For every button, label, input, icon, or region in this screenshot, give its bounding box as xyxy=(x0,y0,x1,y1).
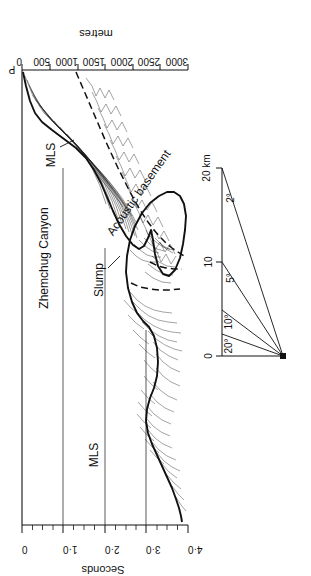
depth-tick-label-0: 0 xyxy=(16,56,22,67)
depth-tick-label-500: 500 xyxy=(33,56,50,67)
time-axis-title: Seconds xyxy=(81,564,124,576)
profile-start-marker: P xyxy=(8,64,15,75)
label-mls-upper: MLS xyxy=(44,143,58,168)
time-tick-label-2: 2·0 xyxy=(105,544,120,555)
seismic-profile-figure: 0 500 1000 1500 2000 2500 3000 metres P xyxy=(0,0,311,576)
depth-tick-label-3000: 3000 xyxy=(165,56,188,67)
inset-scale-label-20km: 20 km xyxy=(201,154,212,181)
inset-angle-label-10: 10° xyxy=(223,314,234,329)
inset-angle-label-5: 5° xyxy=(225,273,236,283)
inset-scale-label-10: 10 xyxy=(203,256,214,268)
depth-tick-label-2000: 2000 xyxy=(110,56,133,67)
depth-tick-label-2500: 2500 xyxy=(137,56,160,67)
label-mls-lower: MLS xyxy=(87,443,101,468)
depth-axis-title: metres xyxy=(79,28,113,40)
label-slump: Slump xyxy=(92,263,106,297)
inset-angle-label-2: 2° xyxy=(225,193,236,203)
figure-canvas: 0 500 1000 1500 2000 2500 3000 metres P xyxy=(0,0,311,576)
time-tick-label-1: 1·0 xyxy=(63,544,78,555)
depth-tick-label-1500: 1500 xyxy=(82,56,105,67)
inset-apex-marker xyxy=(280,353,286,359)
label-zhemchug-canyon: Zhemchug Canyon xyxy=(37,207,51,308)
time-tick-label-0: 0 xyxy=(22,544,28,555)
time-tick-label-4: 4·0 xyxy=(188,544,203,555)
inset-angle-label-20: 20° xyxy=(223,338,234,353)
depth-tick-label-1000: 1000 xyxy=(55,56,78,67)
time-tick-label-3: 3·0 xyxy=(146,544,161,555)
inset-scale-label-0: 0 xyxy=(203,353,214,359)
